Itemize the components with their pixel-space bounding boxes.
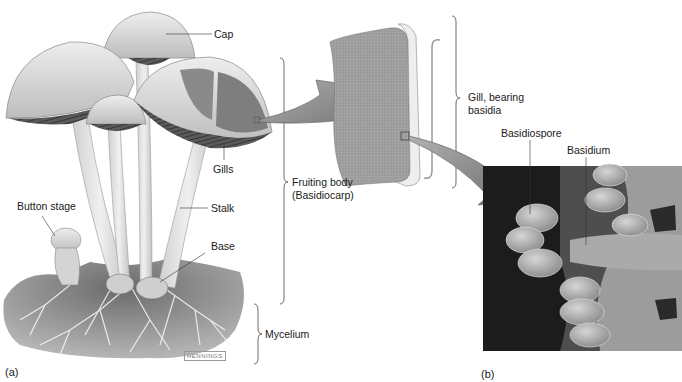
- label-basidiospore: Basidiospore: [501, 127, 562, 140]
- panel-label-a: (a): [5, 366, 18, 378]
- label-fruiting-body-line1: Fruiting body: [292, 176, 354, 189]
- label-gill-bearing-line2: basidia: [468, 104, 524, 117]
- label-mycelium: Mycelium: [265, 328, 309, 341]
- label-basidium: Basidium: [567, 144, 610, 157]
- artist-signature: HENNINGS: [184, 351, 226, 361]
- sem-micrograph: [483, 164, 682, 351]
- mycelium-bracket: [254, 304, 262, 364]
- panel-label-b: (b): [481, 368, 494, 380]
- label-cap: Cap: [214, 28, 233, 41]
- label-base: Base: [211, 240, 235, 253]
- fruiting-body-bracket: [280, 58, 288, 304]
- label-stalk: Stalk: [211, 202, 234, 215]
- gill-block: [330, 24, 440, 186]
- label-button-stage: Button stage: [17, 200, 76, 213]
- label-gill-bearing-line1: Gill, bearing: [468, 91, 524, 104]
- right-cap-cross-section: [134, 57, 272, 148]
- label-gill-bearing-basidia: Gill, bearing basidia: [468, 91, 524, 117]
- label-fruiting-body: Fruiting body (Basidiocarp): [292, 176, 354, 202]
- label-fruiting-body-line2: (Basidiocarp): [292, 189, 354, 202]
- label-gills: Gills: [213, 163, 233, 176]
